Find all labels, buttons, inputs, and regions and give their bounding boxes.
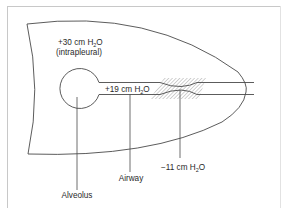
alveolus-circle — [60, 69, 99, 109]
compression-zone-hatch — [150, 78, 206, 99]
airway-callout: Airway — [119, 174, 144, 183]
airway-pressure-label: +19 cm H2O — [105, 85, 150, 95]
alveolus-callout: Alveolus — [62, 191, 93, 200]
alveolus-airway — [60, 69, 254, 109]
airway-pressure-diagram: +30 cm H2O (intrapleural) +19 cm H2O −11… — [0, 0, 283, 208]
intrapleural-pressure-label: +30 cm H2O — [58, 38, 103, 48]
compression-pressure-label: −11 cm H2O — [161, 163, 205, 173]
intrapleural-note: (intrapleural) — [56, 48, 102, 57]
